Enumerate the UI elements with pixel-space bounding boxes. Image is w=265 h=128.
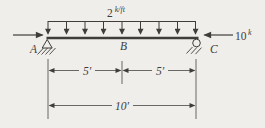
node-label-c: C [210, 43, 218, 55]
dim-label-total-span: 10′ [115, 100, 130, 112]
figure-page: { "figure": { "distributed_load": { "val… [0, 0, 265, 128]
roller-support-c [187, 39, 202, 54]
pin-triangle [42, 40, 52, 49]
dimension-left-span: 5′ [50, 65, 121, 77]
distributed-load: 2k/ft [48, 5, 197, 34]
node-label-b: B [120, 40, 127, 52]
axial-load-unit: k [248, 28, 252, 37]
dimension-right-span: 5′ [124, 65, 195, 77]
dim-label-left-span: 5′ [83, 65, 92, 77]
dimension-total-span: 10′ [50, 100, 195, 112]
dim-label-right-span: 5′ [156, 65, 165, 77]
node-label-a: A [29, 43, 38, 55]
pin-support-a [38, 40, 56, 55]
axial-load-value: 10 [235, 30, 247, 42]
distributed-load-value: 2 [107, 7, 113, 19]
distributed-load-label: 2k/ft [107, 5, 126, 20]
distributed-load-unit: k/ft [115, 5, 126, 14]
roller-circle [193, 39, 201, 47]
axial-load-label: 10k [235, 28, 252, 42]
beam-diagram: 2k/ft 10k A B C 5′ [0, 0, 265, 128]
axial-load: 10k [205, 28, 253, 42]
